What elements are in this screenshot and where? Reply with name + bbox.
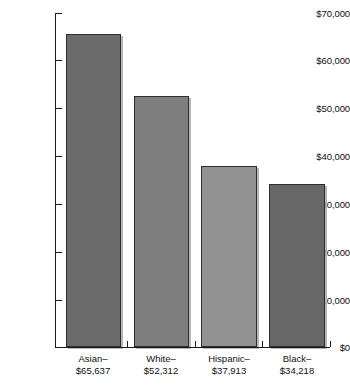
x-axis-line — [55, 347, 330, 348]
bar-chart: $70,000 $60,000 $50,000 $40,000 $30,000 … — [0, 0, 350, 385]
x-tick-0 — [55, 341, 56, 347]
y-tick-30000 — [56, 204, 62, 205]
y-tick-20000 — [56, 252, 62, 253]
x-axis-label-black: Black– $34,218 — [257, 353, 337, 377]
x-tick-4 — [330, 341, 331, 347]
y-tick-label-60000: $60,000 — [300, 55, 350, 66]
y-tick-50000 — [56, 108, 62, 109]
x-tick-1 — [127, 341, 128, 347]
y-tick-70000 — [56, 13, 62, 14]
y-tick-label-70000: $70,000 — [300, 8, 350, 19]
y-tick-label-40000: $40,000 — [300, 151, 350, 162]
x-axis-label-black-category: Black– — [257, 353, 337, 365]
bar-hispanic — [201, 166, 257, 347]
y-tick-60000 — [56, 60, 62, 61]
x-axis-label-black-value: $34,218 — [257, 365, 337, 377]
y-tick-10000 — [56, 300, 62, 301]
y-axis-line — [55, 13, 56, 348]
bar-black — [269, 184, 325, 347]
bar-asian — [66, 34, 121, 347]
x-tick-2 — [195, 341, 196, 347]
y-tick-label-50000: $50,000 — [300, 103, 350, 114]
bar-white — [134, 96, 189, 347]
y-tick-40000 — [56, 156, 62, 157]
x-tick-3 — [262, 341, 263, 347]
